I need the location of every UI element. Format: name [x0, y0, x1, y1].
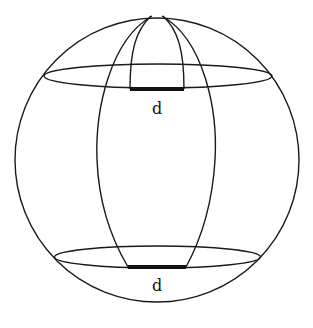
lower-parallel-circle	[55, 246, 261, 268]
lower-width-label: d	[152, 276, 162, 295]
upper-parallel-circle	[44, 64, 272, 88]
right-outer-meridian	[162, 16, 215, 267]
upper-width-label: d	[152, 99, 162, 118]
left-outer-meridian	[97, 16, 152, 267]
left-inner-meridian	[130, 16, 151, 89]
right-inner-meridian	[163, 16, 184, 89]
sphere-diagram: d d	[0, 0, 313, 328]
